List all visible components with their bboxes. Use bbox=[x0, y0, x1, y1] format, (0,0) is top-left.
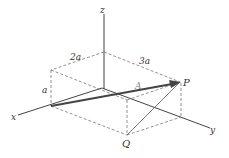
x-axis bbox=[18, 88, 102, 115]
vector-a bbox=[51, 84, 172, 106]
vector-a-label: A bbox=[134, 81, 142, 91]
x-axis-label: x bbox=[11, 112, 16, 122]
z-axis-label: z bbox=[99, 5, 105, 15]
height-a-label: a bbox=[42, 85, 47, 95]
y-axis-label: y bbox=[209, 125, 216, 135]
y-extent-3a-label: 3a bbox=[139, 56, 150, 66]
x-extent-2a-label: 2a bbox=[69, 52, 81, 62]
dashed-edge-bottom-right bbox=[127, 117, 181, 135]
dashed-edge-bottom-left bbox=[51, 106, 127, 135]
point-p-label: P bbox=[182, 77, 190, 88]
vector-diagram: z x y P Q A a 2a 3a bbox=[0, 0, 229, 158]
point-q-label: Q bbox=[122, 138, 130, 149]
dashed-edge-top-front-left bbox=[51, 70, 127, 100]
